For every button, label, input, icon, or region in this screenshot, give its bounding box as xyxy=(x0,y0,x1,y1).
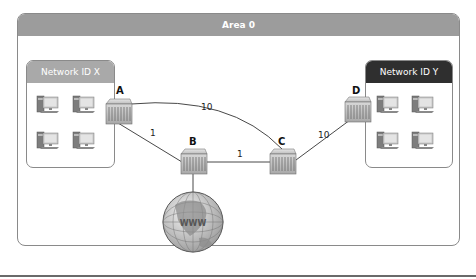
router-d-icon xyxy=(345,97,371,122)
link-c-d xyxy=(296,120,350,160)
computer-icon xyxy=(73,96,95,113)
computer-icon xyxy=(377,96,399,113)
computer-icon xyxy=(73,132,95,149)
globe-icon: WWW xyxy=(163,192,223,252)
router-d-label: D xyxy=(352,85,360,96)
topology-drawing: WWW xyxy=(0,0,476,279)
router-b-label: B xyxy=(189,136,197,147)
computer-icon xyxy=(412,132,434,149)
router-a-label: A xyxy=(116,85,124,96)
computer-icon xyxy=(377,132,399,149)
network-x-hosts xyxy=(37,96,95,149)
router-c-icon xyxy=(270,149,296,174)
cost-c-d: 10 xyxy=(318,130,329,140)
network-y-hosts xyxy=(377,96,434,149)
cost-a-c: 10 xyxy=(201,102,212,112)
cost-b-c: 1 xyxy=(237,149,243,159)
router-a-icon xyxy=(106,99,132,124)
svg-text:WWW: WWW xyxy=(180,219,207,228)
bottom-divider xyxy=(0,275,476,277)
computer-icon xyxy=(37,96,59,113)
cost-a-b: 1 xyxy=(150,128,156,138)
computer-icon xyxy=(37,132,59,149)
router-c-label: C xyxy=(278,136,285,147)
computer-icon xyxy=(412,96,434,113)
router-b-icon xyxy=(181,149,207,174)
